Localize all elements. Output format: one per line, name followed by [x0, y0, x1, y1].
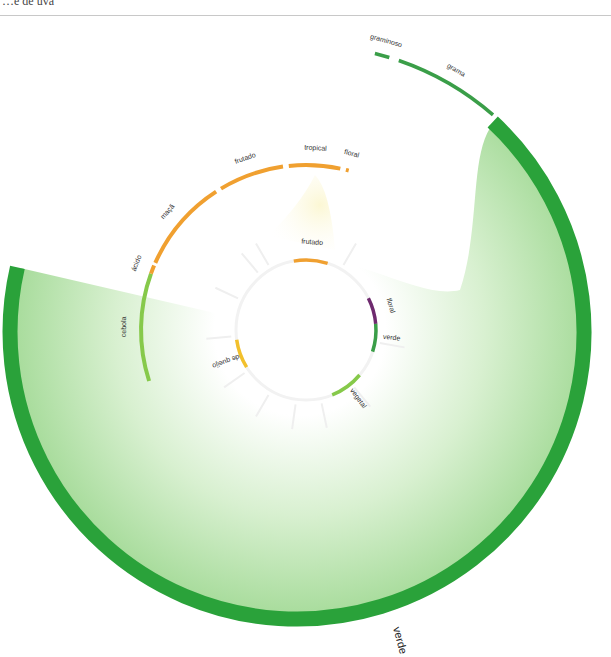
expanded-arc-label: verde: [391, 625, 410, 655]
outer-segment-graminoso[interactable]: [375, 54, 389, 58]
middle-segment-floral[interactable]: [346, 170, 349, 171]
faint-spoke: [215, 288, 238, 299]
middle-label: cebola: [120, 316, 127, 337]
outer-segment-grama[interactable]: [399, 61, 493, 115]
middle-segment-ácido[interactable]: [151, 266, 154, 274]
outer-label: grama: [445, 62, 466, 79]
outer-label: graminoso: [369, 33, 403, 49]
flavor-wheel-diagram: frutadofloralverdevegetalde queijocebola…: [0, 0, 611, 657]
outer-ring: [375, 54, 493, 115]
